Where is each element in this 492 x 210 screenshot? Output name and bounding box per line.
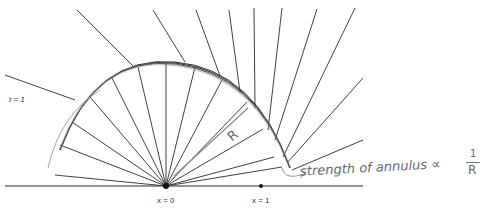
annulus-diagram <box>0 0 492 210</box>
inner-ray <box>166 102 247 186</box>
annulus-arc <box>60 64 290 168</box>
outer-ray <box>153 10 185 62</box>
t-label: t = 1 <box>9 95 25 104</box>
inner-ray <box>60 145 166 186</box>
inner-ray <box>166 167 282 186</box>
annulus-arc <box>60 63 290 168</box>
fraction-denominator: R <box>468 163 476 177</box>
outer-ray <box>229 10 240 92</box>
outer-ray <box>254 8 255 108</box>
x1-point <box>259 184 263 188</box>
annulus-arc <box>60 62 290 168</box>
inner-ray <box>166 157 274 186</box>
x0-label: x = 0 <box>157 196 175 205</box>
fraction-numerator: 1 <box>470 148 476 159</box>
outer-ray <box>77 10 135 68</box>
outer-ray <box>287 78 363 163</box>
inner-ray <box>138 67 166 186</box>
origin-point <box>163 183 169 189</box>
outer-ray <box>196 10 220 76</box>
inner-ray <box>166 80 222 186</box>
radius-pencil-line <box>174 108 248 176</box>
diagram-canvas: t = 1 x = 0 x = 1 R strength of annulus … <box>0 0 492 210</box>
inner-ray <box>166 67 195 186</box>
pencil-sketch-arc <box>48 90 100 168</box>
outer-ray <box>275 9 317 140</box>
inner-ray <box>55 175 166 186</box>
x1-label: x = 1 <box>252 196 270 205</box>
outer-ray <box>268 8 282 130</box>
annulus-arc <box>60 62 290 168</box>
